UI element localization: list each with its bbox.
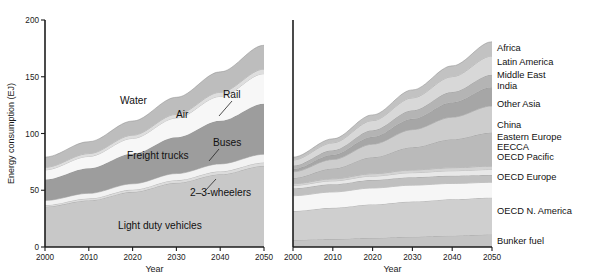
inline-label-air: Air: [176, 109, 189, 120]
legend-label-bunker-fuel: Bunker fuel: [497, 236, 544, 246]
legend-label-india: India: [497, 81, 518, 91]
stacked-area-figure: 050100150200Energy consumption (EJ)20002…: [0, 0, 594, 280]
x-tick-label: 2010: [324, 253, 343, 262]
x-tick-label: 2040: [443, 253, 462, 262]
x-tick-label: 2050: [255, 253, 274, 262]
legend-label-other-asia: Other Asia: [497, 99, 541, 109]
x-tick-label: 2000: [284, 253, 303, 262]
x-axis-title: Year: [145, 264, 163, 274]
legend-label-eecca: EECCA: [497, 142, 530, 152]
x-axis-title: Year: [383, 264, 401, 274]
legend-label-africa: Africa: [497, 43, 522, 53]
x-tick-label: 2000: [36, 253, 55, 262]
inline-label-buses: Buses: [213, 137, 241, 148]
x-tick-label: 2010: [80, 253, 99, 262]
inline-label-freight-trucks: Freight trucks: [127, 150, 189, 161]
legend-label-middle-east: Middle East: [497, 70, 546, 80]
legend-label-latin-america: Latin America: [497, 57, 554, 67]
x-tick-label: 2020: [123, 253, 142, 262]
x-tick-label: 2040: [211, 253, 230, 262]
x-tick-label: 2020: [363, 253, 382, 262]
y-tick-label: 200: [25, 16, 39, 25]
legend-label-oecd-europe: OECD Europe: [497, 172, 556, 182]
legend-label-eastern-europe: Eastern Europe: [497, 132, 562, 142]
x-tick-label: 2050: [483, 253, 502, 262]
y-axis-title: Energy consumption (EJ): [6, 83, 16, 184]
y-tick-label: 150: [25, 73, 39, 82]
y-tick-label: 50: [30, 186, 40, 195]
legend-label-china: China: [497, 120, 522, 130]
y-tick-label: 100: [25, 130, 39, 139]
legend-label-oecd-pacific: OECD Pacific: [497, 152, 554, 162]
figure-container: 050100150200Energy consumption (EJ)20002…: [0, 0, 594, 280]
legend-label-oecd-north-america: OECD N. America: [497, 206, 573, 216]
y-tick-label: 0: [34, 243, 39, 252]
inline-label-two-three-wheelers: 2–3-wheelers: [190, 187, 251, 198]
x-tick-label: 2030: [167, 253, 186, 262]
inline-label-rail: Rail: [223, 89, 241, 100]
x-tick-label: 2030: [403, 253, 422, 262]
inline-label-light-duty-vehicles: Light duty vehicles: [118, 220, 202, 231]
inline-label-water: Water: [120, 95, 147, 106]
